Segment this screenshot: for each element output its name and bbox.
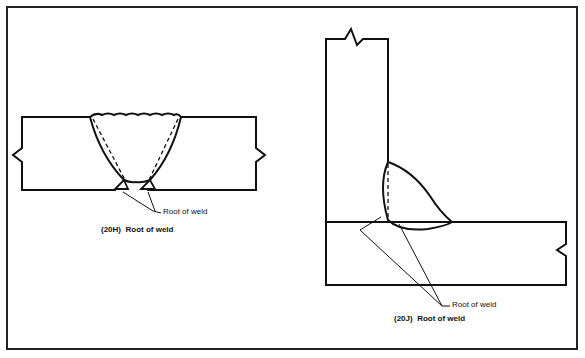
fillet-dashed-lines (388, 164, 450, 222)
fillet-weld-20j (326, 29, 566, 285)
groove-right-dashed (149, 119, 178, 180)
groove-left-dashed (93, 119, 125, 180)
callout-root-of-weld-20h: Root of weld (163, 207, 207, 216)
fillet-bead (383, 162, 452, 230)
caption-20j-id: (20J) (394, 314, 413, 323)
callout-root-of-weld-20j: Root of weld (452, 300, 496, 309)
leaders-20h (123, 192, 161, 213)
caption-20j: (20J) Root of weld (394, 314, 465, 323)
weld-diagram (0, 0, 585, 358)
caption-20j-text: Root of weld (417, 314, 465, 323)
caption-20h-text: Root of weld (125, 225, 173, 234)
caption-20h: (20H) Root of weld (101, 225, 173, 234)
vertical-plate-outline (326, 29, 388, 222)
weld-face (90, 114, 181, 118)
left-plate-outline (13, 117, 116, 190)
butt-weld-20h (13, 114, 265, 191)
caption-20h-id: (20H) (101, 225, 121, 234)
leaders-20j (360, 217, 450, 306)
right-plate-outline (147, 117, 265, 190)
